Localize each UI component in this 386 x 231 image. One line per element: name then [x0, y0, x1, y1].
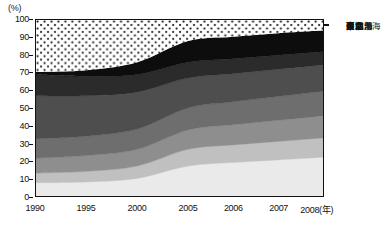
x-axis-tick-label: 1995	[77, 203, 96, 213]
y-axis-tick-mark	[29, 37, 33, 38]
legend-leader-line	[324, 25, 329, 26]
y-axis-tick-mark	[29, 55, 33, 56]
legend-item-長三角: 長三角	[346, 19, 372, 31]
stacked-area-chart: (%) 0102030405060708090100 1990199520002…	[0, 0, 386, 231]
y-axis-tick-label: 70	[20, 67, 29, 77]
x-axis-tick-label: 2000	[128, 203, 147, 213]
y-axis-tick-label: 20	[20, 156, 29, 166]
y-axis-tick-mark	[29, 179, 33, 180]
y-axis-tick-mark	[29, 108, 33, 109]
x-axis-tick-label: 2005	[179, 203, 198, 213]
chart-legend: 東北中西部西北西南環渤海中南東南沿海長三角	[324, 19, 386, 197]
y-axis: 0102030405060708090100	[0, 19, 33, 197]
plot-area	[35, 19, 324, 197]
y-axis-tick-mark	[29, 19, 33, 20]
x-axis-tick-label: 2006	[224, 203, 243, 213]
y-axis-tick-mark	[29, 90, 33, 91]
x-axis: 1990199520002005200620072008(年)	[35, 198, 324, 218]
y-axis-tick-mark	[29, 126, 33, 127]
y-axis-tick-label: 90	[20, 32, 29, 42]
x-axis-tick-label: 2008(年)	[300, 203, 333, 216]
y-axis-tick-mark	[29, 144, 33, 145]
x-axis-tick-label: 1990	[26, 203, 45, 213]
y-axis-tick-mark	[29, 161, 33, 162]
y-axis-tick-label: 30	[20, 139, 29, 149]
y-axis-tick-mark	[29, 72, 33, 73]
y-axis-tick-label: 10	[20, 174, 29, 184]
y-axis-tick-label: 40	[20, 121, 29, 131]
y-axis-tick-mark	[29, 197, 33, 198]
y-axis-tick-label: 100	[15, 14, 29, 24]
y-axis-tick-label: 50	[20, 103, 29, 113]
y-axis-tick-label: 80	[20, 50, 29, 60]
x-axis-tick-label: 2007	[269, 203, 288, 213]
area-series-svg	[36, 20, 323, 196]
y-axis-tick-label: 60	[20, 85, 29, 95]
y-axis-unit-label: (%)	[8, 3, 21, 13]
